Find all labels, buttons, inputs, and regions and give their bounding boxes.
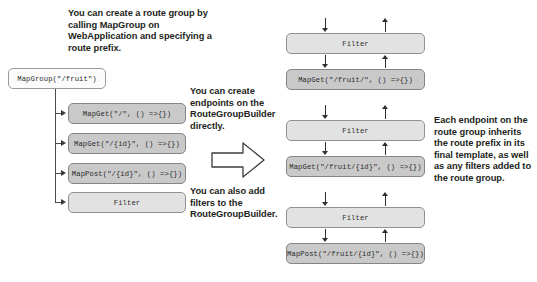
endpoint-box-result-mappost-id: MapPost("/fruit/{id}", () =>{}) bbox=[286, 243, 425, 264]
filter-box-group: Filter bbox=[68, 192, 186, 213]
annotation-create-route-group: You can create a route group by calling … bbox=[68, 8, 218, 54]
annotation-create-endpoints: You can create endpoints on the RouteGro… bbox=[190, 86, 282, 132]
tree-arrow-2-icon bbox=[61, 140, 66, 146]
endpoint-box-mappost-id: MapPost("/{id}", () =>{}) bbox=[68, 163, 186, 184]
endpoint-box-mapget-id: MapGet("/{id}", () =>{}) bbox=[68, 133, 186, 154]
route-group-box-mapgroup: MapGroup("/fruit") bbox=[8, 68, 106, 89]
filter-box-result-1: Filter bbox=[286, 33, 425, 54]
diagram-canvas: You can create a route group by calling … bbox=[0, 0, 537, 282]
tree-arrow-1-icon bbox=[61, 110, 66, 116]
filter-box-result-2: Filter bbox=[286, 120, 425, 141]
annotation-inherits-prefix: Each endpoint on the route group inherit… bbox=[434, 115, 534, 185]
block-arrow-right-icon bbox=[210, 140, 266, 180]
tree-trunk-line bbox=[55, 89, 56, 203]
tree-arrow-3-icon bbox=[61, 170, 66, 176]
filter-box-result-3: Filter bbox=[286, 207, 425, 228]
endpoint-box-result-mapget-id: MapGet("/fruit/{id}", () =>{}) bbox=[286, 156, 425, 177]
endpoint-box-mapget-root: MapGet("/", () =>{}) bbox=[68, 103, 186, 124]
tree-arrow-4-icon bbox=[61, 199, 66, 205]
endpoint-box-result-mapget-root: MapGet("/fruit/", () =>{}) bbox=[286, 69, 425, 90]
annotation-add-filters: You can also add filters to the RouteGro… bbox=[190, 186, 286, 221]
